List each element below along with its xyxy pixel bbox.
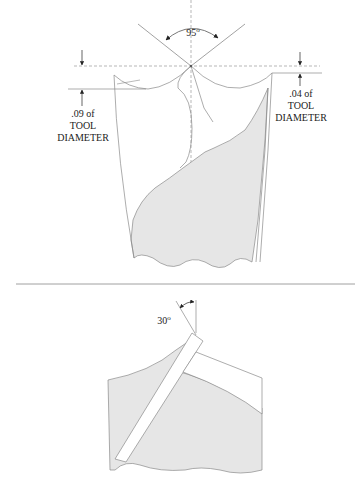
right-dimension-label: .04 of TOOL DIAMETER (270, 88, 332, 124)
web-curve-left (178, 66, 192, 168)
right-cutting-lip (191, 66, 272, 88)
left-lip-inner (117, 80, 140, 84)
point-center (190, 65, 192, 67)
point-angle-unit: o (196, 26, 200, 34)
drill-point-diagram (0, 0, 364, 500)
left-dimension-label: .09 of TOOL DIAMETER (52, 108, 114, 144)
left-dim-line1: .09 of (52, 108, 114, 120)
flute-shaded-region (131, 88, 268, 268)
left-dim-line2: TOOL (52, 120, 114, 132)
helix-angle-unit: o (167, 314, 171, 322)
right-dim-line2: TOOL (270, 100, 332, 112)
body-left-edge (114, 75, 134, 258)
web-line-right (191, 66, 213, 122)
left-cutting-lip (114, 66, 191, 89)
point-angle-value: 95 (186, 27, 196, 38)
right-dim-line1: .04 of (270, 88, 332, 100)
right-dim-line3: DIAMETER (270, 112, 332, 124)
helix-angle-value: 30 (157, 315, 167, 326)
helix-angle-arc (180, 302, 194, 308)
left-dim-line3: DIAMETER (52, 132, 114, 144)
side-view (108, 300, 262, 473)
helix-angle-label: 30o (152, 312, 176, 327)
helix-angle-line (176, 301, 196, 335)
point-angle-label: 95o (178, 24, 208, 39)
